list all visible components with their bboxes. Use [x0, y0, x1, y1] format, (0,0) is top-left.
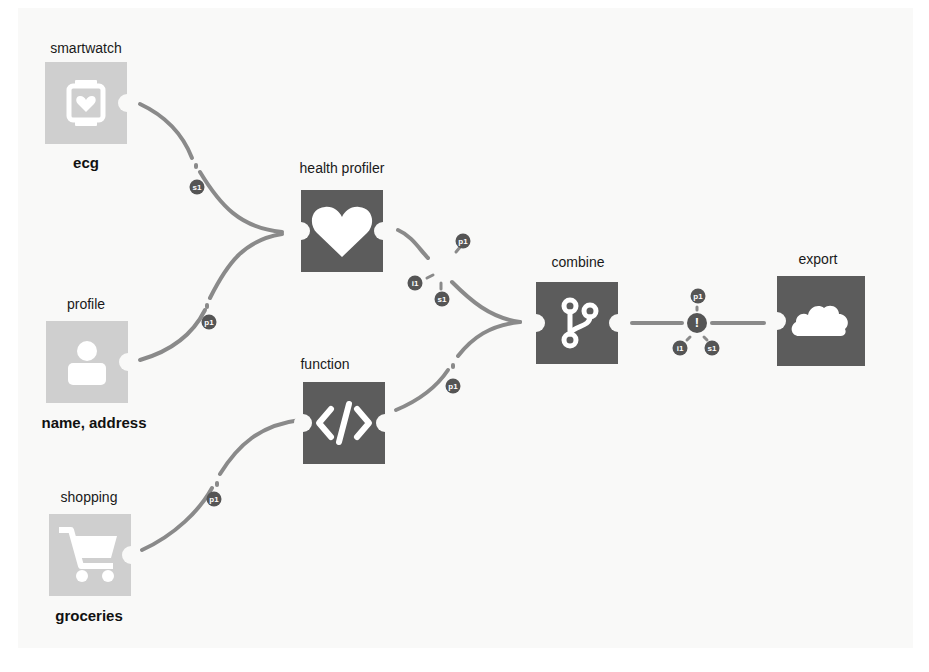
- edge-function-combine: [396, 370, 448, 410]
- edge-badge-p1[interactable]: p1: [202, 315, 217, 330]
- user-icon: [46, 321, 128, 403]
- warning-icon[interactable]: !: [687, 313, 707, 333]
- input-port[interactable]: [527, 314, 545, 332]
- node-export[interactable]: [777, 276, 865, 366]
- smartwatch-heart-icon: [45, 62, 127, 144]
- node-title-function: function: [300, 356, 349, 372]
- node-title-combine: combine: [552, 254, 605, 270]
- input-port[interactable]: [768, 312, 786, 330]
- edge-badge-p1[interactable]: p1: [691, 289, 706, 304]
- edge-badge-p1[interactable]: p1: [446, 379, 461, 394]
- node-function[interactable]: [303, 382, 385, 464]
- edge-health-combine: [398, 230, 428, 258]
- edge-badge-p1[interactable]: p1: [207, 492, 222, 507]
- edge-badge-p1[interactable]: p1: [456, 234, 471, 249]
- node-shopping[interactable]: [49, 514, 131, 596]
- edge-badge-s1[interactable]: s1: [190, 180, 205, 195]
- edge-badge-s1[interactable]: s1: [705, 341, 720, 356]
- output-port[interactable]: [376, 414, 394, 432]
- edge-badge-i1[interactable]: i1: [408, 276, 423, 291]
- heart-icon: [301, 190, 383, 272]
- edge-smartwatch-health: [140, 104, 192, 158]
- node-title-profile: profile: [67, 296, 105, 312]
- cloud-icon: [777, 276, 865, 366]
- code-icon: [303, 382, 385, 464]
- output-port[interactable]: [119, 353, 137, 371]
- node-subtitle-smartwatch: ecg: [73, 154, 99, 171]
- node-health-profiler[interactable]: [301, 190, 383, 272]
- output-port[interactable]: [122, 546, 140, 564]
- edge-profile-health: [140, 310, 205, 360]
- node-combine[interactable]: [536, 282, 618, 364]
- node-subtitle-shopping: groceries: [55, 607, 123, 624]
- node-smartwatch[interactable]: [45, 62, 127, 144]
- output-port[interactable]: [609, 314, 627, 332]
- input-port[interactable]: [292, 222, 310, 240]
- node-title-health-profiler: health profiler: [300, 160, 385, 176]
- node-title-export: export: [799, 251, 838, 267]
- input-port[interactable]: [294, 414, 312, 432]
- node-profile[interactable]: [46, 321, 128, 403]
- output-port[interactable]: [374, 222, 392, 240]
- merge-branch-icon: [536, 282, 618, 364]
- edge-badge-s1[interactable]: s1: [435, 292, 450, 307]
- output-port[interactable]: [118, 94, 136, 112]
- node-title-smartwatch: smartwatch: [50, 40, 122, 56]
- cart-icon: [49, 514, 131, 596]
- node-title-shopping: shopping: [61, 489, 118, 505]
- edge-badge-i1[interactable]: i1: [673, 341, 688, 356]
- edge-shopping-function: [142, 488, 212, 550]
- node-subtitle-profile: name, address: [41, 414, 146, 431]
